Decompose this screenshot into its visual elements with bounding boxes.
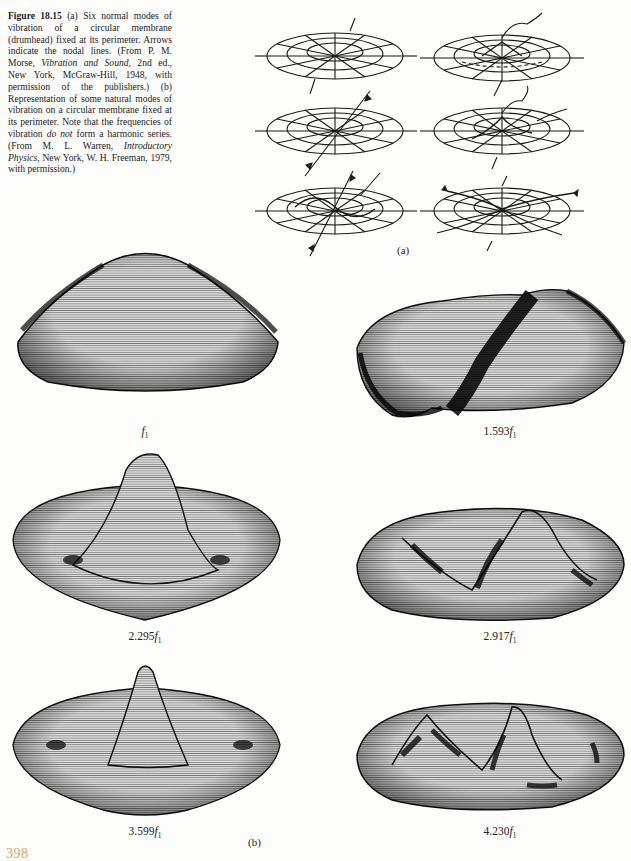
freq-label-2295: 2.295f1 xyxy=(85,630,205,645)
part-b-marker: (b) xyxy=(161,81,172,92)
surface-mode-4230 xyxy=(352,695,627,815)
freq-label-3599: 3.599f1 xyxy=(85,825,205,840)
mode-1-1-wireframe xyxy=(255,18,417,94)
panel-a-wireframes xyxy=(255,8,625,270)
mode-3-2-wireframe xyxy=(420,176,584,251)
figure-caption: Figure 18.15 (a) Six normal modes of vib… xyxy=(8,10,172,175)
mode-1-2-wireframe xyxy=(420,13,584,96)
surface-mode-2917 xyxy=(352,500,627,625)
mode-2-2-wireframe xyxy=(420,86,584,169)
panel-b-label: (b) xyxy=(248,836,261,848)
freq-label-f1: f1 xyxy=(85,425,205,440)
freq-label-4230: 4.230f1 xyxy=(440,825,560,840)
part-b-emphasis: do not xyxy=(47,128,73,139)
surface-mode-f1 xyxy=(8,250,283,395)
mode-2-1-wireframe xyxy=(255,91,417,176)
mode-3-1-wireframe xyxy=(255,171,417,256)
panel-a-label: (a) xyxy=(397,244,409,256)
part-a-book-title: Vibration and Sound xyxy=(41,57,128,68)
freq-label-1593: 1.593f1 xyxy=(440,425,560,440)
figure-label: Figure 18.15 xyxy=(8,10,62,21)
surface-mode-1593 xyxy=(352,283,627,413)
page-number: 398 xyxy=(6,846,29,861)
freq-label-2917: 2.917f1 xyxy=(440,630,560,645)
part-a-marker: (a) xyxy=(67,10,78,21)
surface-mode-2295 xyxy=(8,450,283,625)
surface-mode-3599 xyxy=(8,660,283,820)
